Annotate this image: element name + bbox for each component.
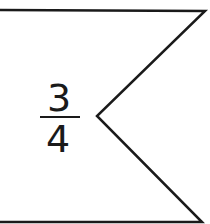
fraction-numerator: 3 [47, 76, 71, 120]
banner-diagram: 3 4 [0, 0, 210, 224]
banner-outline [0, 10, 205, 222]
fraction-denominator: 4 [46, 117, 70, 161]
